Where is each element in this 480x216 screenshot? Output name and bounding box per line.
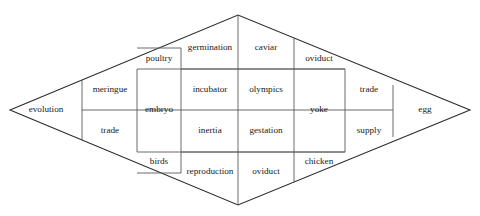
cell-label-trade-right: trade xyxy=(360,84,378,94)
cell-label-yoke: yoke xyxy=(310,104,328,114)
cell-label-inertia: inertia xyxy=(198,125,221,135)
rhombus-diagram: evolution meringue trade poultry embryo … xyxy=(0,0,480,216)
cell-label-olympics: olympics xyxy=(249,84,283,94)
cell-label-embryo: embryo xyxy=(145,104,173,114)
cell-label-oviduct-bottom: oviduct xyxy=(252,166,280,176)
cell-label-trade-left: trade xyxy=(101,125,119,135)
cell-label-gestation: gestation xyxy=(249,125,283,135)
cell-label-caviar: caviar xyxy=(255,42,277,52)
diagram-canvas: evolution meringue trade poultry embryo … xyxy=(0,0,480,216)
cell-label-birds: birds xyxy=(150,156,169,166)
cell-label-reproduction: reproduction xyxy=(187,166,234,176)
cell-label-germination: germination xyxy=(188,42,233,52)
cell-label-meringue: meringue xyxy=(93,84,128,94)
cell-label-supply: supply xyxy=(357,125,382,135)
cell-label-oviduct-top: oviduct xyxy=(305,53,333,63)
cell-label-evolution: evolution xyxy=(29,104,64,114)
cell-label-poultry: poultry xyxy=(146,53,173,63)
cell-label-egg: egg xyxy=(418,104,432,114)
cell-label-chicken: chicken xyxy=(305,156,334,166)
cell-label-incubator: incubator xyxy=(193,84,228,94)
